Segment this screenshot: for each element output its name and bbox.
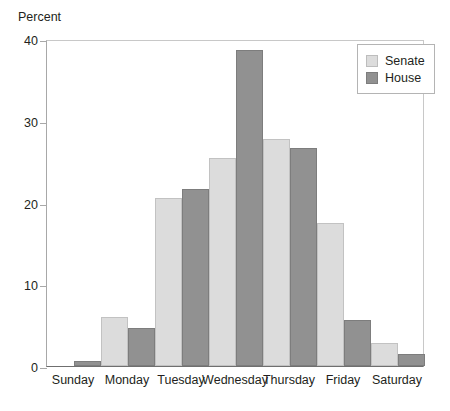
bar-friday-house[interactable] [344,320,371,366]
bar-monday-house[interactable] [128,328,155,366]
legend-entry-house[interactable]: House [366,69,425,86]
bar-group [155,41,209,366]
x-axis-label-tuesday: Tuesday [157,373,204,387]
x-axis-label-monday: Monday [105,373,149,387]
y-axis-tick-label: 40 [24,34,38,48]
y-axis-tick [40,123,47,124]
bar-chart: Percent 010203040 SundayMondayTuesdayWed… [0,0,450,411]
bar-group [263,41,317,366]
bar-wednesday-house[interactable] [236,50,263,366]
bar-tuesday-house[interactable] [182,189,209,366]
y-axis-tick [40,205,47,206]
x-axis-label-saturday: Saturday [372,373,422,387]
bar-group [101,41,155,366]
legend-swatch-senate-icon [366,55,378,67]
legend-label: Senate [385,54,425,68]
legend-entry-senate[interactable]: Senate [366,52,425,69]
y-axis-tick-label: 30 [24,116,38,130]
x-axis-label-thursday: Thursday [263,373,315,387]
y-axis-tick-label: 10 [24,279,38,293]
y-axis-tick-label: 0 [31,361,38,375]
bar-thursday-house[interactable] [290,148,317,366]
bar-saturday-house[interactable] [398,354,425,366]
y-axis-title: Percent [18,10,61,24]
bar-monday-senate[interactable] [101,317,128,366]
chart-legend: SenateHouse [357,44,435,94]
bar-sunday-house[interactable] [74,361,101,366]
y-axis-tick-label: 20 [24,198,38,212]
y-axis-tick [40,286,47,287]
x-axis-label-sunday: Sunday [52,373,94,387]
bar-thursday-senate[interactable] [263,139,290,366]
legend-label: House [385,71,421,85]
bar-friday-senate[interactable] [317,223,344,366]
x-axis-label-wednesday: Wednesday [202,373,268,387]
y-axis-tick [40,368,47,369]
legend-swatch-house-icon [366,72,378,84]
y-axis-tick [40,41,47,42]
legend-entries: SenateHouse [366,52,425,86]
bar-wednesday-senate[interactable] [209,158,236,366]
bar-saturday-senate[interactable] [371,343,398,366]
bar-tuesday-senate[interactable] [155,198,182,366]
x-axis-label-friday: Friday [326,373,361,387]
bar-group [209,41,263,366]
bar-group [47,41,101,366]
